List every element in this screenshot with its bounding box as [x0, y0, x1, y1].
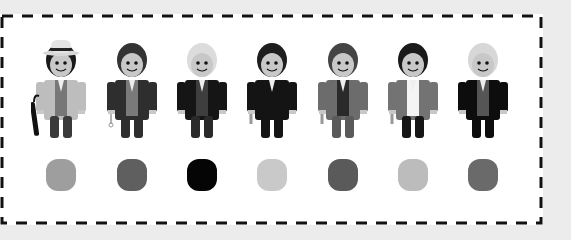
- figure-1-color-swatch: [46, 159, 76, 191]
- figure-4-illustration: [242, 32, 302, 142]
- figure-6-illustration: [383, 32, 443, 142]
- figure-4-color-swatch: [257, 159, 287, 191]
- figure-6-color-swatch: [398, 159, 428, 191]
- figure-2-color-swatch: [117, 159, 147, 191]
- figure-3-color-swatch: [187, 159, 217, 191]
- figure-7-illustration: [453, 32, 513, 142]
- figure-1-illustration: [31, 32, 91, 142]
- figure-7-color-swatch: [468, 159, 498, 191]
- figure-2-illustration: [102, 32, 162, 142]
- figure-5-color-swatch: [328, 159, 358, 191]
- figure-5-illustration: [313, 32, 373, 142]
- figure-3-illustration: [172, 32, 232, 142]
